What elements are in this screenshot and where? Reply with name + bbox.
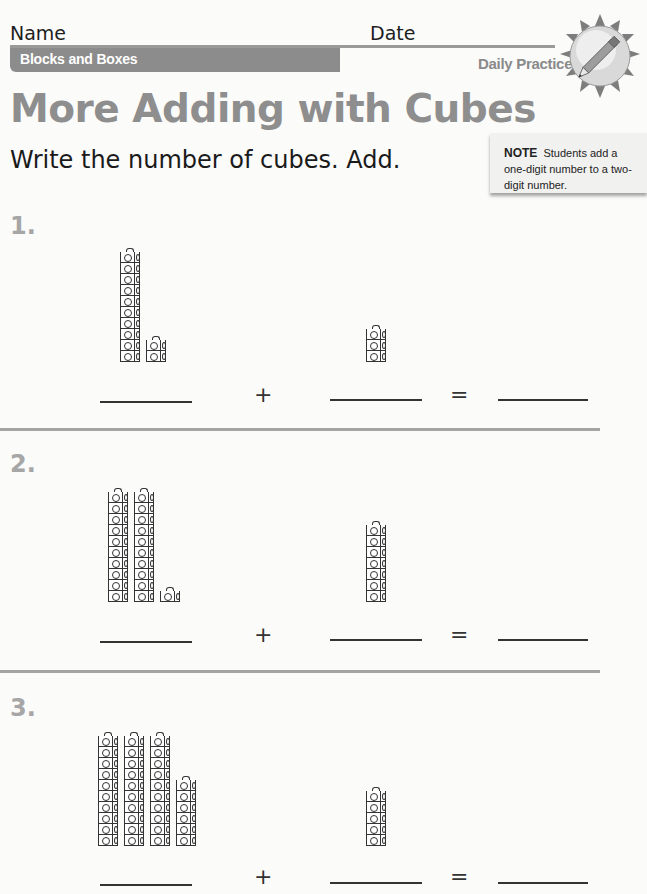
pencil-sun-icon (558, 12, 642, 100)
ten-stick (134, 488, 154, 602)
section-divider (0, 428, 600, 431)
answer-blank-sum[interactable] (498, 882, 588, 884)
instructions: Write the number of cubes. Add. (10, 146, 400, 174)
ten-stick (108, 488, 128, 602)
answer-blank-addend-2[interactable] (330, 639, 422, 641)
equals-sign: = (450, 864, 468, 889)
date-label: Date (370, 22, 415, 44)
plus-sign: + (254, 382, 272, 407)
section-divider (0, 670, 600, 673)
ones-stick (366, 787, 386, 846)
problem-1-right-cubes (366, 314, 386, 362)
page-title: More Adding with Cubes (10, 86, 536, 131)
answer-blank-addend-1[interactable] (100, 884, 192, 886)
teacher-note: NOTE Students add a one-digit number to … (490, 133, 647, 193)
equals-sign: = (450, 622, 468, 647)
problem-number: 2. (10, 450, 36, 478)
ten-stick (124, 732, 144, 846)
ten-stick (120, 248, 140, 362)
ones-stick (176, 776, 196, 846)
ten-stick (150, 732, 170, 846)
ten-stick (98, 732, 118, 846)
problem-2-left-cubes (108, 468, 180, 602)
answer-blank-addend-2[interactable] (330, 882, 422, 884)
equals-sign: = (450, 382, 468, 407)
plus-sign: + (254, 622, 272, 647)
answer-blank-addend-1[interactable] (100, 641, 192, 643)
problem-number: 3. (10, 694, 36, 722)
answer-blank-sum[interactable] (498, 639, 588, 641)
answer-blank-addend-1[interactable] (100, 401, 192, 403)
problem-3-left-cubes (98, 712, 196, 846)
problem-2-right-cubes (366, 506, 386, 602)
answer-blank-addend-2[interactable] (330, 399, 422, 401)
plus-sign: + (254, 864, 272, 889)
unit-banner: Blocks and Boxes (10, 48, 340, 72)
name-label: Name (10, 22, 66, 44)
problem-1-left-cubes (120, 228, 166, 362)
note-label: NOTE (504, 146, 537, 160)
unit-banner-label: Blocks and Boxes (20, 51, 137, 67)
problem-3-right-cubes (366, 776, 386, 846)
problem-number: 1. (10, 212, 36, 240)
answer-blank-sum[interactable] (498, 399, 588, 401)
ones-stick (366, 325, 386, 362)
ones-stick (366, 521, 386, 602)
ones-stick (146, 336, 166, 362)
ones-stick (160, 587, 180, 602)
